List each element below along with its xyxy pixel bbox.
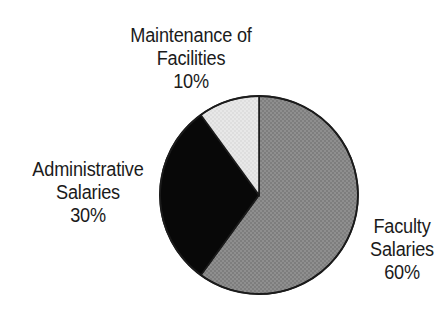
pie-label-faculty-salaries: Faculty Salaries 60%	[365, 215, 439, 285]
pie-label-line-1: Administrative	[9, 158, 167, 181]
pie-label-line-2: Salaries	[365, 238, 439, 261]
pie-label-line-1: Maintenance of	[103, 24, 280, 47]
pie-label-line-2: Salaries	[9, 181, 167, 204]
pie-label-line-1: Faculty	[365, 215, 439, 238]
pie-chart-figure: Maintenance of Facilities 10% Administra…	[0, 0, 443, 318]
pie-label-line-2: Facilities	[103, 47, 280, 70]
pie-label-maintenance-of-facilities: Maintenance of Facilities 10%	[103, 24, 280, 94]
pie-label-percent: 10%	[103, 70, 280, 93]
pie-label-percent: 60%	[365, 261, 439, 284]
pie-label-administrative-salaries: Administrative Salaries 30%	[9, 158, 167, 228]
pie-label-percent: 30%	[9, 204, 167, 227]
